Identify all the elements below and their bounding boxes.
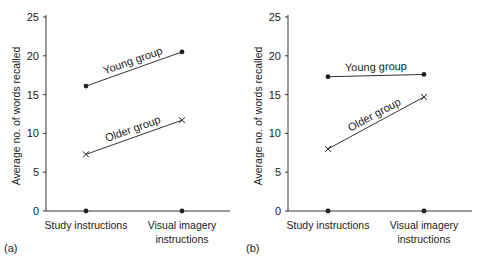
y-tick-label: 5 [33, 166, 39, 178]
series-line [328, 74, 424, 76]
dot-marker [180, 50, 185, 55]
y-tick-label: 15 [27, 89, 39, 101]
y-tick-label: 0 [275, 205, 281, 217]
x-category-label: Visual imagery [148, 219, 217, 231]
y-axis-label: Average no. of words recalled [10, 46, 22, 185]
y-tick-label: 20 [27, 50, 39, 62]
chart-a-svg: 0510152025Average no. of words recalledS… [0, 0, 242, 272]
y-tick-label: 0 [33, 205, 39, 217]
series-label: Older group [346, 95, 403, 133]
x-category-label: Study instructions [45, 219, 128, 231]
chart-panel-b: 0510152025Average no. of words recalledS… [242, 0, 484, 272]
x-category-label: instructions [397, 233, 450, 245]
series-label: Young group [345, 60, 407, 73]
baseline-dot [180, 209, 185, 214]
y-tick-label: 15 [269, 89, 281, 101]
baseline-dot [422, 209, 427, 214]
y-tick-label: 25 [27, 11, 39, 23]
baseline-dot [84, 209, 89, 214]
dot-marker [326, 74, 331, 79]
y-tick-label: 25 [269, 11, 281, 23]
panel-label-b: (b) [246, 242, 259, 254]
y-tick-label: 5 [275, 166, 281, 178]
x-category-label: Study instructions [287, 219, 370, 231]
chart-panel-a: 0510152025Average no. of words recalledS… [0, 0, 242, 272]
y-axis-label: Average no. of words recalled [252, 46, 264, 185]
x-marker [325, 146, 331, 152]
series-label: Older group [103, 113, 162, 144]
y-tick-label: 20 [269, 50, 281, 62]
panel-label-a: (a) [4, 242, 17, 254]
series-label: Young group [101, 44, 163, 76]
x-category-label: instructions [155, 233, 208, 245]
y-tick-label: 10 [269, 127, 281, 139]
y-tick-label: 10 [27, 127, 39, 139]
baseline-dot [326, 209, 331, 214]
dot-marker [84, 84, 89, 89]
series-line [328, 97, 424, 149]
dot-marker [422, 72, 427, 77]
x-marker [83, 151, 89, 157]
chart-b-svg: 0510152025Average no. of words recalledS… [242, 0, 484, 272]
x-marker [421, 94, 427, 100]
x-category-label: Visual imagery [390, 219, 459, 231]
x-marker [179, 117, 185, 123]
